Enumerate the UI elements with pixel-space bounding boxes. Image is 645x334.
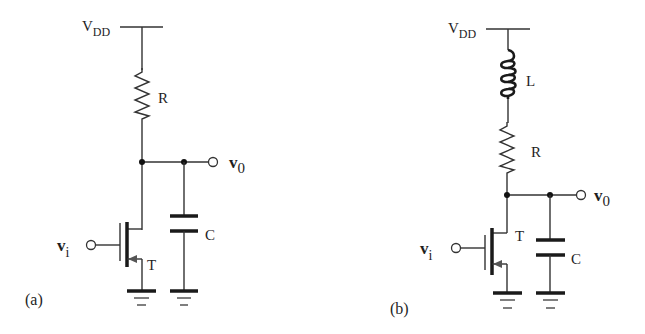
transistor-icon bbox=[485, 228, 507, 293]
ground-icon bbox=[127, 291, 156, 305]
inductor-label: L bbox=[526, 73, 535, 89]
transistor-label: T bbox=[147, 257, 156, 273]
output-label: v0 bbox=[594, 186, 610, 209]
panel-caption-a: (a) bbox=[25, 291, 43, 309]
resistor-label: R bbox=[531, 144, 541, 160]
vdd-label: VDD bbox=[448, 20, 477, 41]
input-terminal bbox=[87, 241, 96, 250]
output-terminal bbox=[209, 158, 218, 167]
junction-dot bbox=[504, 192, 510, 198]
capacitor-label: C bbox=[571, 251, 581, 267]
output-label: v0 bbox=[229, 153, 245, 176]
panel-caption-b: (b) bbox=[390, 300, 409, 318]
junction-dot bbox=[139, 159, 145, 165]
resistor-icon bbox=[500, 122, 514, 177]
vdd-label: VDD bbox=[82, 18, 111, 39]
panel-a: VDD R v0 C bbox=[25, 18, 245, 309]
resistor-icon bbox=[135, 68, 149, 123]
resistor-label: R bbox=[158, 90, 168, 106]
input-label: vi bbox=[420, 239, 433, 263]
ground-icon bbox=[493, 293, 522, 308]
input-terminal bbox=[452, 244, 461, 253]
circuit-diagram: VDD R v0 C bbox=[0, 0, 645, 334]
ground-icon bbox=[536, 293, 565, 308]
capacitor-label: C bbox=[205, 227, 215, 243]
output-terminal bbox=[577, 191, 586, 200]
transistor-icon bbox=[120, 222, 142, 291]
transistor-label: T bbox=[515, 228, 524, 244]
inductor-icon bbox=[501, 50, 515, 99]
panel-b: VDD L R v0 C bbox=[390, 20, 610, 318]
ground-icon bbox=[170, 291, 198, 305]
input-label: vi bbox=[57, 236, 70, 260]
